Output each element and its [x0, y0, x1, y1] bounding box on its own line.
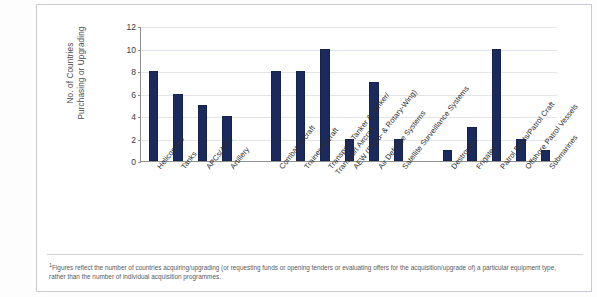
footnote-text: Figures reflect the number of countries …	[49, 264, 556, 280]
y-axis-tick-mark	[138, 140, 141, 141]
y-axis-tick-mark	[138, 117, 141, 118]
plot-area: 024681012 HelicoptersTanksAPCs/AIFVArtil…	[140, 27, 557, 162]
x-axis-label: Tanks	[180, 150, 199, 171]
y-axis-tick-label: 2	[131, 135, 136, 145]
y-axis-title: No. of Countries Purchasing or Upgrading	[65, 13, 87, 133]
y-axis-tick-label: 0	[131, 157, 136, 167]
y-axis-tick-label: 10	[126, 45, 136, 55]
bar-chart: No. of Countries Purchasing or Upgrading…	[37, 5, 593, 253]
bar	[271, 71, 281, 161]
y-axis-tick-mark	[138, 27, 141, 28]
chart-frame: No. of Countries Purchasing or Upgrading…	[36, 4, 592, 292]
y-axis-tick-label: 12	[126, 22, 136, 32]
x-axis-label-line: Artillery	[229, 145, 252, 171]
y-axis-tick-mark	[138, 162, 141, 163]
y-axis-title-line1: No. of Countries	[65, 13, 76, 133]
gridline	[141, 27, 557, 28]
y-axis-tick-mark	[138, 95, 141, 96]
chart-page: No. of Countries Purchasing or Upgrading…	[0, 0, 597, 297]
footnote-divider	[47, 254, 583, 255]
y-axis-tick-mark	[138, 50, 141, 51]
bar	[198, 105, 208, 161]
y-axis-tick-label: 6	[131, 90, 136, 100]
x-axis-label: Artillery	[229, 146, 252, 172]
footnote: 1Figures reflect the number of countries…	[49, 261, 573, 282]
bar	[149, 71, 159, 161]
y-axis-tick-label: 4	[131, 112, 136, 122]
y-axis-title-line2: Purchasing or Upgrading	[76, 13, 87, 133]
x-axis-label-line: Transport Aircraft	[334, 97, 399, 177]
y-axis-tick-mark	[138, 72, 141, 73]
bar	[443, 150, 453, 161]
y-axis-tick-label: 8	[131, 67, 136, 77]
